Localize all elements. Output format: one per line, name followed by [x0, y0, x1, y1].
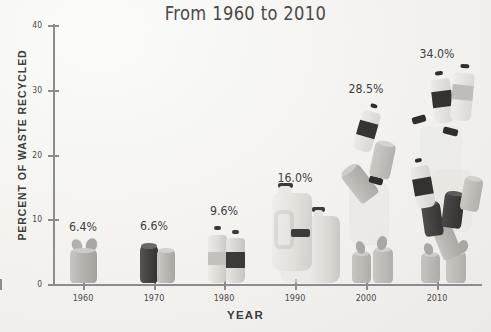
- x-axis-title: YEAR: [0, 309, 491, 321]
- x-tick-label-1980: 1980: [199, 292, 250, 303]
- aluminum-can-icon: [140, 246, 158, 283]
- aluminum-can-icon: [157, 250, 175, 283]
- y-tick-label-20: 20: [3, 150, 42, 160]
- x-tick-label-1970: 1970: [129, 292, 180, 303]
- y-tick-40: [48, 25, 59, 27]
- y-tick-label-10: 10: [3, 214, 42, 224]
- value-label-1990: 16.0%: [260, 170, 330, 185]
- aluminum-can-icon: [421, 254, 440, 283]
- x-tick-label-1990: 1990: [270, 292, 321, 303]
- milk-jug-icon: [272, 193, 312, 271]
- plastic-bottle-icon: [450, 65, 476, 122]
- chart-title: From 1960 to 2010: [34, 2, 456, 24]
- milk-jug-icon: [308, 216, 340, 283]
- y-tick-20: [48, 155, 59, 157]
- aluminum-can-icon: [352, 253, 371, 283]
- x-tick-label-2010: 2010: [412, 292, 463, 303]
- x-tick-label-2000: 2000: [341, 292, 392, 303]
- value-label-2000: 28.5%: [331, 81, 401, 96]
- y-tick-30: [48, 90, 59, 92]
- y-tick-label-40: 40: [3, 20, 42, 30]
- y-tick-label-30: 30: [3, 85, 42, 95]
- aluminum-can-icon: [373, 249, 393, 283]
- aluminum-can-icon: [459, 177, 483, 213]
- value-label-1960: 6.4%: [48, 219, 118, 234]
- x-tick-label-1960: 1960: [58, 292, 109, 303]
- value-label-2010: 34.0%: [402, 46, 472, 61]
- bottle-cap-icon: [411, 114, 426, 125]
- value-label-1980: 9.6%: [189, 203, 259, 218]
- recycling-rate-chart: From 1960 to 2010 PERCENT OF WASTE RECYC…: [0, 0, 491, 332]
- y-tick-0: [48, 284, 59, 286]
- plastic-bottle-icon: [226, 232, 245, 283]
- value-label-1970: 6.6%: [119, 218, 189, 233]
- y-tick-label-0: 0: [3, 279, 42, 289]
- x-tick-1990: [0, 279, 2, 290]
- x-axis-line: [53, 284, 482, 286]
- aluminum-can-icon: [369, 141, 397, 180]
- plastic-bottle-icon: [208, 228, 227, 283]
- aluminum-can-icon: [70, 250, 97, 283]
